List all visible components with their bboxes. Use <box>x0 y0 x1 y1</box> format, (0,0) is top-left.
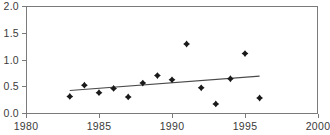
chart-figure: 0.00.51.01.52.0 19801985199019952000 <box>0 0 330 135</box>
data-point-marker <box>212 101 219 108</box>
y-tick-label: 2.0 <box>4 0 20 12</box>
x-tick-label: 1980 <box>14 120 39 132</box>
data-point-marker <box>183 41 190 48</box>
x-tick-label: 2000 <box>306 120 330 132</box>
data-point-marker <box>96 89 103 96</box>
data-point-marker <box>154 72 161 79</box>
data-point-marker <box>256 95 263 102</box>
x-tick-label: 1995 <box>233 120 258 132</box>
data-point-marker <box>227 75 234 82</box>
data-point-marker <box>198 84 205 91</box>
scatter-plot-svg: 0.00.51.01.52.0 19801985199019952000 <box>0 0 330 135</box>
data-point-marker <box>81 82 88 89</box>
data-point-marker <box>125 94 132 101</box>
y-tick-label: 1.5 <box>4 27 20 39</box>
y-tick-label: 0.5 <box>4 80 20 92</box>
y-tick-label: 1.0 <box>4 54 20 66</box>
y-tick-group: 0.00.51.01.52.0 <box>4 0 27 119</box>
data-marker-group <box>66 41 263 108</box>
x-tick-label: 1985 <box>87 120 112 132</box>
data-point-marker <box>110 85 117 92</box>
x-tick-label: 1990 <box>160 120 185 132</box>
x-tick-group: 19801985199019952000 <box>14 114 330 133</box>
data-point-marker <box>66 93 73 100</box>
y-tick-label: 0.0 <box>4 107 20 119</box>
data-point-marker <box>242 50 249 57</box>
